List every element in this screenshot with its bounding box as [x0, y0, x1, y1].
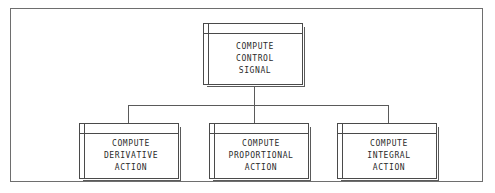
connector-drop-proportional: [254, 105, 255, 123]
diagram-canvas: COMPUTE CONTROL SIGNAL COMPUTE DERIVATIV…: [0, 0, 495, 193]
module-label-line-1: COMPUTE: [236, 41, 274, 53]
module-label-line-1: COMPUTE: [112, 138, 150, 150]
module-compute-integral-action[interactable]: COMPUTE INTEGRAL ACTION: [337, 123, 437, 179]
connector-drop-integral: [388, 105, 389, 123]
module-label-line-1: COMPUTE: [242, 138, 280, 150]
module-label-line-2: PROPORTIONAL: [229, 150, 294, 162]
module-label-line-1: COMPUTE: [370, 138, 408, 150]
module-label-line-3: ACTION: [115, 162, 148, 174]
connector-horizontal-bus: [128, 105, 388, 106]
diagram-frame: COMPUTE CONTROL SIGNAL COMPUTE DERIVATIV…: [10, 8, 483, 182]
module-label: COMPUTE CONTROL SIGNAL: [210, 33, 300, 84]
module-label-line-2: INTEGRAL: [367, 150, 410, 162]
module-label-line-2: CONTROL: [236, 53, 274, 65]
module-label: COMPUTE DERIVATIVE ACTION: [86, 133, 176, 178]
connector-drop-derivative: [128, 105, 129, 123]
module-compute-proportional-action[interactable]: COMPUTE PROPORTIONAL ACTION: [209, 123, 309, 179]
module-label-line-3: SIGNAL: [239, 65, 272, 77]
module-label: COMPUTE PROPORTIONAL ACTION: [216, 133, 306, 178]
module-label-line-3: ACTION: [245, 162, 278, 174]
module-label-line-2: DERIVATIVE: [104, 150, 158, 162]
module-compute-derivative-action[interactable]: COMPUTE DERIVATIVE ACTION: [79, 123, 179, 179]
module-label-line-3: ACTION: [373, 162, 406, 174]
module-label: COMPUTE INTEGRAL ACTION: [344, 133, 434, 178]
module-compute-control-signal[interactable]: COMPUTE CONTROL SIGNAL: [203, 23, 303, 85]
